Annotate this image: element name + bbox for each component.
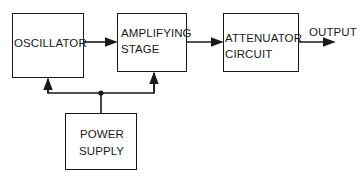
power-supply-label-line2: SUPPLY xyxy=(79,144,124,159)
oscillator-block: OSCILLATOR xyxy=(12,13,84,78)
amplifier-label-line2: STAGE xyxy=(121,42,160,57)
attenuator-circuit-block: ATTENUATOR CIRCUIT xyxy=(223,13,299,72)
power-supply-label-line1: POWER xyxy=(80,127,124,142)
attenuator-label-line1: ATTENUATOR xyxy=(225,31,302,46)
oscillator-label: OSCILLATOR xyxy=(14,36,87,51)
power-supply-block: POWER SUPPLY xyxy=(65,113,137,170)
attenuator-label-line2: CIRCUIT xyxy=(225,47,272,62)
junction-dot xyxy=(98,90,103,95)
amplifying-stage-block: AMPLIFYING STAGE xyxy=(117,13,187,72)
amplifier-label-line1: AMPLIFYING xyxy=(121,26,192,41)
output-label: OUTPUT xyxy=(309,25,357,40)
